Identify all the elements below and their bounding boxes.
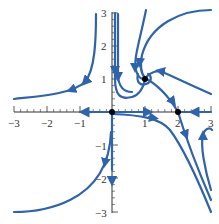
trajectory-spiral-to-saddle xyxy=(145,78,178,112)
equilibrium-origin xyxy=(109,109,115,115)
x-tick-label: −3 xyxy=(8,117,20,129)
trajectory-upper-left xyxy=(14,14,96,99)
x-tick-label: 3 xyxy=(208,117,214,129)
x-tick-label: −2 xyxy=(41,117,53,129)
equilibrium-saddle xyxy=(175,109,181,115)
equilibrium-spiral xyxy=(142,76,148,82)
trajectory-saddle-down xyxy=(178,112,211,200)
x-tick-label: −1 xyxy=(74,117,86,129)
y-tick-label: −1 xyxy=(95,140,107,152)
y-tick-label: 2 xyxy=(101,40,107,52)
trajectory-near-yaxis-2 xyxy=(118,14,132,92)
y-tick-label: 1 xyxy=(101,73,107,85)
y-tick-label: 3 xyxy=(101,7,107,19)
trajectory-top-right-to-spiral xyxy=(141,10,211,78)
spiral-swirl xyxy=(145,71,211,94)
phase-portrait: −3 −2 −1 1 2 3 3 2 1 −1 −2 −3 xyxy=(0,0,219,224)
y-tick-label: −3 xyxy=(95,207,107,219)
x-tick-label: 1 xyxy=(142,117,148,129)
